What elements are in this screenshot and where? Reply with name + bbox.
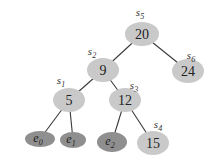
binary-tree-diagram: 20s59s224s65s112s3e0e1e215s4 — [0, 0, 218, 164]
tree-node-e2: e2 — [97, 132, 127, 152]
node-name-label: s5 — [136, 6, 144, 21]
node-key: 9 — [100, 63, 107, 78]
node-key: 15 — [146, 136, 160, 151]
node-name-label: s1 — [57, 74, 65, 89]
tree-node-s2: 9s2 — [87, 45, 119, 82]
node-key: 24 — [181, 64, 195, 79]
tree-node-e0: e0 — [25, 131, 55, 147]
node-key: 20 — [135, 27, 149, 42]
nodes: 20s59s224s65s112s3e0e1e215s4 — [25, 6, 204, 155]
tree-node-e1: e1 — [60, 132, 86, 148]
tree-node-s5: 20s5 — [125, 6, 159, 46]
tree-node-s4: 15s4 — [137, 118, 169, 155]
tree-node-s1: 5s1 — [53, 74, 85, 112]
node-name-label: s2 — [88, 45, 96, 60]
node-name-label: s4 — [154, 118, 162, 133]
tree-node-s6: 24s6 — [172, 49, 204, 83]
node-key: 12 — [118, 93, 132, 108]
node-key: 5 — [66, 93, 73, 108]
